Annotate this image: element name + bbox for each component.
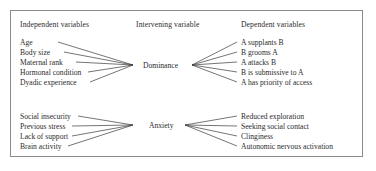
dependent-variables-anxiety: Reduced exploration Seeking social conta… [241, 112, 333, 152]
independent-variables-anxiety: Social insecurity Previous stress Lack o… [20, 112, 71, 152]
list-item: A has priority of access [241, 78, 312, 88]
list-item: Brain activity [20, 142, 71, 152]
list-item: Lack of support [20, 132, 71, 142]
list-item: Clinginess [241, 132, 333, 142]
intervening-node-anxiety: Anxiety [149, 121, 173, 130]
intervening-node-dominance: Dominance [143, 61, 178, 70]
list-item: Body size [20, 48, 81, 58]
list-item: Previous stress [20, 122, 71, 132]
list-item: Seeking social contact [241, 122, 333, 132]
column-header-dependent: Dependent variables [241, 20, 305, 29]
list-item: Maternal rank [20, 58, 81, 68]
list-item: Autonomic nervous activation [241, 142, 333, 152]
diagram-page: Independent variables Intervening variab… [0, 0, 376, 171]
dependent-variables-dominance: A supplants B B grooms A A attacks B B i… [241, 38, 312, 88]
list-item: Hormonal condition [20, 68, 81, 78]
list-item: Reduced exploration [241, 112, 333, 122]
list-item: B grooms A [241, 48, 312, 58]
column-header-intervening: Intervening variable [136, 20, 199, 29]
list-item: A supplants B [241, 38, 312, 48]
list-item: Dyadic experience [20, 78, 81, 88]
list-item: Social insecurity [20, 112, 71, 122]
column-header-independent: Independent variables [20, 20, 89, 29]
list-item: A attacks B [241, 58, 312, 68]
independent-variables-dominance: Age Body size Maternal rank Hormonal con… [20, 38, 81, 88]
list-item: B is submissive to A [241, 68, 312, 78]
list-item: Age [20, 38, 81, 48]
